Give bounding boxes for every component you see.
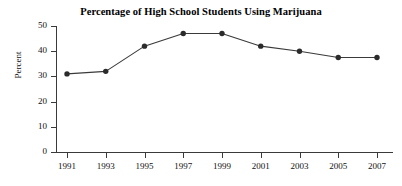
chart-figure: Percentage of High School Students Using… — [0, 0, 402, 186]
series-markers — [64, 31, 379, 77]
data-point — [103, 69, 108, 74]
series-line — [67, 34, 377, 74]
data-point — [181, 31, 186, 36]
data-point — [336, 55, 341, 60]
data-point — [64, 71, 69, 76]
data-point — [297, 49, 302, 54]
data-point — [258, 43, 263, 48]
data-series-plot — [0, 0, 402, 186]
data-point — [219, 31, 224, 36]
data-point — [374, 55, 379, 60]
data-point — [142, 43, 147, 48]
